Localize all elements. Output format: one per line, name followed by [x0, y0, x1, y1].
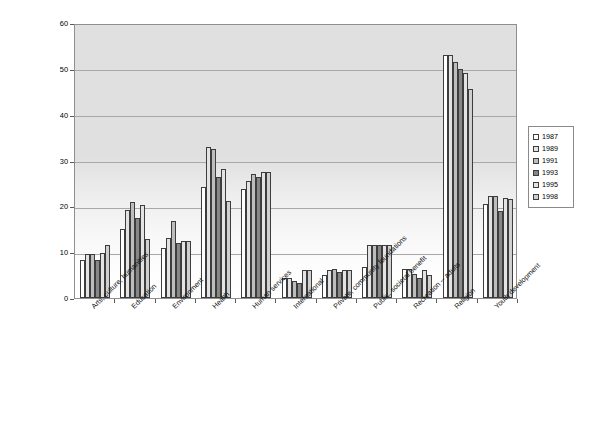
bar-group	[282, 25, 312, 298]
y-tick-label: 30	[40, 158, 68, 166]
legend-swatch	[533, 182, 539, 188]
legend-swatch	[533, 134, 539, 140]
legend-item: 1995	[533, 179, 570, 191]
legend-item: 1991	[533, 155, 570, 167]
legend-label: 1998	[542, 193, 558, 201]
bar-group	[201, 25, 231, 298]
x-tick-mark	[316, 299, 317, 303]
legend-swatch	[533, 146, 539, 152]
x-tick-mark	[114, 299, 115, 303]
x-tick-mark	[155, 299, 156, 303]
legend-label: 1993	[542, 169, 558, 177]
bar-group	[443, 25, 473, 298]
x-tick-mark	[356, 299, 357, 303]
bar-group	[241, 25, 271, 298]
y-tick-label: 50	[40, 66, 68, 74]
legend-label: 1991	[542, 157, 558, 165]
legend-item: 1989	[533, 143, 570, 155]
legend-label: 1987	[542, 133, 558, 141]
y-tick-label: 40	[40, 112, 68, 120]
bar-group	[80, 25, 110, 298]
y-tick-label: 0	[40, 295, 68, 303]
legend-swatch	[533, 194, 539, 200]
legend-label: 1995	[542, 181, 558, 189]
legend-item: 1987	[533, 131, 570, 143]
y-tick-label: 20	[40, 203, 68, 211]
x-tick-mark	[477, 299, 478, 303]
bar-chart: Percentage of Households 0102030405060 A…	[0, 0, 591, 421]
y-tick-label: 10	[40, 249, 68, 257]
bar	[226, 201, 231, 298]
x-tick-mark	[235, 299, 236, 303]
legend-label: 1989	[542, 145, 558, 153]
bar-group	[483, 25, 513, 298]
bar-group	[161, 25, 191, 298]
x-tick-mark	[396, 299, 397, 303]
legend-swatch	[533, 170, 539, 176]
bar	[468, 89, 473, 298]
bar-group	[322, 25, 352, 298]
legend: 198719891991199319951998	[528, 126, 574, 208]
x-tick-mark	[517, 299, 518, 303]
legend-swatch	[533, 158, 539, 164]
x-tick-mark	[195, 299, 196, 303]
y-tick-mark	[70, 299, 74, 300]
x-tick-mark	[275, 299, 276, 303]
x-tick-mark	[436, 299, 437, 303]
legend-item: 1998	[533, 191, 570, 203]
y-tick-label: 60	[40, 20, 68, 28]
bar	[266, 172, 271, 298]
legend-item: 1993	[533, 167, 570, 179]
